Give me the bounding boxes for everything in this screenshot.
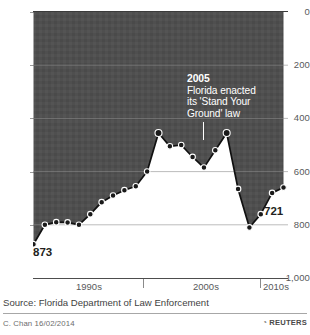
chart-top-rule (33, 11, 288, 12)
reuters-logo: ◔ REUTERS (262, 318, 307, 327)
chart-plot-area: 0 200 400 600 800 1,000 (0, 0, 310, 292)
gun-deaths-line-series (33, 12, 288, 278)
credit-byline: C. Chan 16/02/2014 (3, 319, 75, 328)
series-plot (33, 12, 288, 278)
start-value-label: 873 (33, 246, 52, 258)
reuters-wordmark: REUTERS (269, 318, 307, 327)
chart-figure: 0 200 400 600 800 1,000 (0, 0, 310, 335)
source-note: Source: Florida Department of Law Enforc… (3, 297, 209, 308)
x-axis-tick-2010 (260, 279, 261, 288)
end-value-label: 721 (264, 205, 283, 217)
x-axis-line (33, 278, 288, 279)
footer-divider (3, 313, 307, 314)
reuters-mark-icon: ◔ (262, 318, 267, 327)
annotation-stand-your-ground: 2005 Florida enacted its 'Stand Your Gro… (187, 73, 305, 119)
x-axis-label-2000s: 2000s (193, 281, 219, 292)
annotation-line-2: its 'Stand Your (187, 96, 305, 108)
x-axis-label-1990s: 1990s (76, 281, 102, 292)
x-axis-tick-2000 (143, 279, 144, 288)
annotation-line-1: Florida enacted (187, 85, 305, 97)
annotation-line-3: Ground' law (187, 108, 305, 120)
x-axis-label-2010s: 2010s (263, 281, 289, 292)
annotation-leader-line (203, 122, 204, 140)
annotation-year: 2005 (187, 73, 305, 85)
